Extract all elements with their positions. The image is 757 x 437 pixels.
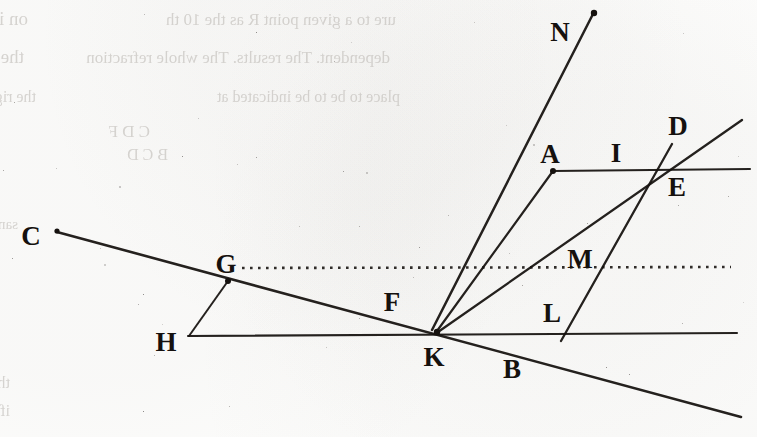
dot-C [54, 228, 59, 233]
scan-speck [3, 170, 4, 171]
scan-speck [326, 347, 327, 348]
point-label-F: F [384, 287, 401, 317]
scan-speck [351, 42, 352, 43]
dotted-axis-G-M [242, 267, 731, 268]
scan-speck [12, 258, 13, 259]
scan-speck [359, 318, 360, 319]
scan-speck [682, 323, 683, 324]
line-H-right [188, 333, 737, 336]
scan-speck [198, 118, 199, 119]
point-label-E: E [668, 172, 686, 202]
line-G-H [189, 281, 228, 336]
scan-speck [413, 277, 414, 278]
scan-speck [144, 14, 145, 15]
scan-speck [299, 226, 300, 227]
point-label-K: K [423, 342, 444, 372]
geometric-figure: NDAIECGMFLHKB [0, 0, 757, 437]
scan-speck [334, 61, 335, 62]
point-label-N: N [550, 17, 570, 47]
point-label-I: I [611, 138, 622, 168]
scan-speck [606, 367, 607, 368]
scan-speck [14, 102, 15, 103]
point-label-C: C [21, 221, 41, 251]
scan-speck [506, 125, 507, 126]
figure-dotted-axis [242, 267, 731, 268]
figure-point-dots [54, 10, 597, 335]
scanned-page: on in a certain ratio; DVG is a dethe wh… [0, 0, 757, 437]
scan-speck [143, 294, 144, 295]
scan-speck [683, 33, 684, 34]
scan-speck [474, 22, 475, 23]
scan-speck [509, 253, 510, 254]
dot-N [591, 10, 597, 16]
figure-point-labels: NDAIECGMFLHKB [21, 17, 688, 384]
dot-K [434, 329, 440, 335]
scan-speck [533, 144, 535, 146]
line-K-A [437, 171, 553, 331]
scan-speck [143, 411, 144, 412]
line-C-K-B [57, 232, 741, 417]
scan-speck [229, 406, 230, 407]
scan-speck [738, 156, 739, 157]
point-label-D: D [668, 111, 688, 141]
scan-speck [256, 32, 257, 33]
scan-speck [182, 156, 183, 157]
point-label-M: M [567, 244, 592, 274]
scan-speck [56, 168, 57, 169]
scan-speck [154, 355, 155, 356]
scan-speck [743, 302, 744, 303]
scan-speck [366, 172, 368, 174]
scan-speck [229, 271, 231, 273]
scan-speck [359, 226, 360, 227]
scan-speck [678, 205, 679, 206]
line-A-I-E-right [553, 169, 750, 171]
scan-speck [104, 264, 106, 266]
scan-speck [162, 324, 163, 325]
scan-speck [343, 171, 344, 172]
scan-speck [629, 374, 630, 375]
point-label-A: A [540, 139, 560, 169]
scan-speck [138, 304, 139, 305]
line-L-D [561, 144, 672, 341]
line-K-N [432, 14, 593, 330]
scan-speck [438, 316, 439, 317]
scan-speck [728, 196, 729, 197]
scan-speck [256, 157, 257, 158]
point-label-B: B [503, 354, 521, 384]
point-label-G: G [215, 249, 236, 279]
scan-speck [237, 164, 238, 165]
scan-speck [419, 247, 420, 248]
scan-speck [587, 223, 588, 224]
scan-speck [119, 186, 121, 188]
scan-speck [522, 285, 523, 286]
point-label-L: L [543, 298, 561, 328]
point-label-H: H [155, 327, 176, 357]
scan-speck [448, 215, 449, 216]
scan-speck [100, 248, 101, 249]
